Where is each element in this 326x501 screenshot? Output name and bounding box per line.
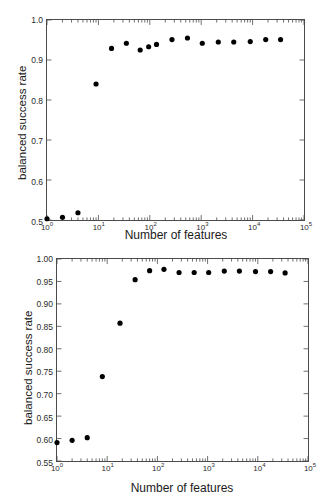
data-point-marker	[263, 37, 268, 42]
x-tick-label: 105	[304, 465, 316, 473]
y-tick-label: 0.65	[36, 413, 53, 422]
y-tick-label: 0.60	[36, 436, 53, 445]
scatter-canvas-bottom	[57, 259, 308, 461]
cropped-title-remnant	[0, 0, 326, 4]
data-point-marker	[185, 35, 190, 40]
data-point-marker	[60, 215, 65, 220]
plot-area-top: 0.50.60.70.80.91.0100101102103104105	[46, 19, 305, 221]
data-point-marker	[176, 270, 181, 275]
scatter-canvas-top	[47, 20, 304, 220]
data-point-marker	[161, 267, 166, 272]
y-tick-label: 0.75	[36, 368, 53, 377]
data-point-marker	[231, 39, 236, 44]
data-point-marker	[146, 44, 151, 49]
x-tick-label: 101	[93, 224, 105, 232]
data-point-marker	[117, 321, 122, 326]
data-point-marker	[100, 374, 105, 379]
x-tick-label: 102	[152, 465, 164, 473]
data-point-marker	[70, 438, 75, 443]
y-tick-label: 1.0	[31, 16, 43, 25]
y-tick-label: 0.9	[31, 56, 43, 65]
data-point-marker	[248, 39, 253, 44]
plot-area-bottom: 0.550.600.650.700.750.800.850.900.951.00…	[56, 258, 309, 462]
x-tick-label: 100	[41, 224, 53, 232]
data-point-marker	[75, 210, 80, 215]
data-point-marker	[278, 37, 283, 42]
x-tick-label: 103	[203, 465, 215, 473]
data-point-marker	[85, 435, 90, 440]
y-tick-label: 0.80	[36, 345, 53, 354]
x-tick-label: 104	[253, 465, 265, 473]
data-point-marker	[54, 440, 59, 445]
figure-bottom: 0.550.600.650.700.750.800.850.900.951.00…	[0, 250, 326, 501]
x-tick-label: 104	[248, 224, 260, 232]
data-point-marker	[283, 270, 288, 275]
data-point-marker	[192, 270, 197, 275]
data-point-marker	[200, 41, 205, 46]
y-axis-title-top: balanced success rate	[16, 66, 28, 180]
data-point-marker	[253, 269, 258, 274]
figure-top: 0.50.60.70.80.91.0100101102103104105 Num…	[0, 0, 326, 250]
data-point-marker	[138, 47, 143, 52]
data-point-marker	[109, 46, 114, 51]
y-tick-label: 0.7	[31, 137, 43, 146]
x-axis-title-bottom: Number of features	[131, 481, 234, 495]
y-tick-label: 1.00	[36, 255, 53, 264]
y-tick-label: 0.95	[36, 277, 53, 286]
y-tick-label: 0.8	[31, 97, 43, 106]
data-point-marker	[147, 268, 152, 273]
y-tick-label: 0.6	[31, 177, 43, 186]
x-tick-label: 105	[300, 224, 312, 232]
x-axis-title-top: Number of features	[125, 228, 228, 242]
data-point-marker	[124, 41, 129, 46]
y-tick-label: 0.85	[36, 323, 53, 332]
data-point-marker	[93, 81, 98, 86]
data-point-marker	[206, 270, 211, 275]
x-tick-label: 100	[51, 465, 63, 473]
y-tick-label: 0.70	[36, 391, 53, 400]
y-tick-label: 0.90	[36, 300, 53, 309]
data-point-marker	[222, 269, 227, 274]
data-point-marker	[154, 42, 159, 47]
data-point-marker	[133, 277, 138, 282]
y-axis-title-bottom: balanced success rate	[22, 311, 34, 425]
data-point-marker	[237, 269, 242, 274]
x-tick-label: 101	[101, 465, 113, 473]
data-point-marker	[169, 37, 174, 42]
data-point-marker	[268, 269, 273, 274]
data-point-marker	[216, 39, 221, 44]
